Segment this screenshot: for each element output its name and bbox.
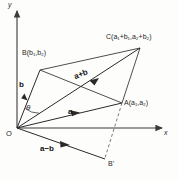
angle-theta-label: θ (26, 104, 30, 112)
vector-b-arrowhead (21, 94, 27, 101)
dashed-A-to-Bprime (105, 103, 122, 158)
point-label-B-prime: B' (108, 160, 114, 167)
y-axis-label: y (8, 1, 12, 8)
origin-label: O (6, 130, 12, 138)
point-label-A: A(a₁,a₂) (124, 99, 148, 106)
vector-a-plus-b-line (17, 48, 140, 128)
vector-label-a: a (68, 108, 72, 116)
vector-diagram-canvas (0, 0, 179, 180)
edge-A-to-C (122, 48, 140, 103)
vector-label-b: b (19, 81, 24, 89)
x-axis-label: x (164, 129, 168, 136)
edge-B-to-C (40, 48, 140, 70)
vector-diagram-figure: y x O B(b₁,b₂) C(a₁+b₁,a₂+b₂) A(a₁,a₂) B… (0, 0, 179, 180)
point-label-C: C(a₁+b₁,a₂+b₂) (106, 33, 152, 40)
vector-a-plus-b-arrowhead (90, 78, 100, 86)
vector-label-a-minus-b: a−b (40, 145, 54, 153)
point-label-B: B(b₁,b₂) (22, 49, 46, 56)
vector-b-line (17, 70, 40, 128)
